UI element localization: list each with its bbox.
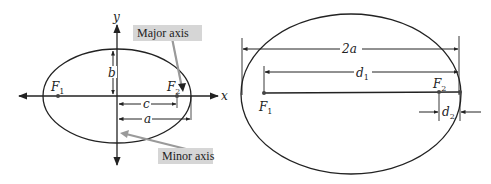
minor-axis-callout-text: Minor axis [162, 149, 215, 163]
focal-segment [264, 92, 460, 93]
left-diagram: x y F1 F2 b c a Major axis Minor axis [19, 10, 228, 165]
d2-dimension-label: d2 [442, 105, 455, 121]
focus-f2-label-right: F2 [432, 77, 446, 93]
x-axis-label: x [221, 89, 228, 103]
two-a-dimension-label: 2a [341, 42, 357, 56]
ellipse-figure: x y F1 F2 b c a Major axis Minor axis [0, 0, 491, 184]
b-dimension-label: b [108, 66, 116, 80]
major-axis-callout-text: Major axis [137, 26, 189, 40]
focus-f1-label: F1 [50, 80, 64, 96]
focus-f1-label-right: F1 [258, 100, 272, 116]
right-ellipse [241, 14, 461, 174]
a-dimension-label: a [144, 112, 151, 126]
focus-f1-point-right [262, 91, 266, 95]
focus-f2-label: F2 [166, 80, 180, 96]
right-diagram: 2a d1 F1 F2 d2 [241, 14, 481, 174]
y-axis-label: y [112, 10, 120, 24]
c-dimension-label: c [143, 97, 150, 111]
ellipse-point [458, 90, 462, 94]
